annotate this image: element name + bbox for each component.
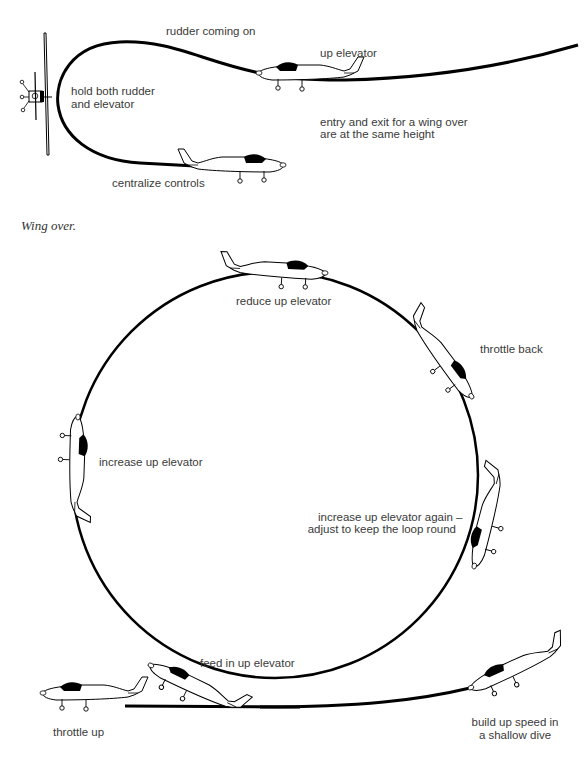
label-increase-up-elevator: increase up elevator <box>99 456 203 469</box>
label-up-elevator: up elevator <box>320 47 377 60</box>
loop-figure <box>40 251 574 727</box>
label-reduce-up-elevator: reduce up elevator <box>236 295 331 308</box>
label-throttle-up: throttle up <box>53 726 104 739</box>
label-feed-in: feed in up elevator <box>200 657 295 670</box>
plane-up-elevator-icon <box>256 57 364 91</box>
label-increase-again-line2: adjust to keep the loop round <box>296 523 456 536</box>
label-centralize: centralize controls <box>112 177 205 190</box>
plane-throttle-back-icon <box>394 303 486 410</box>
label-rudder-coming-on: rudder coming on <box>166 25 256 38</box>
plane-right-descent-icon <box>458 460 519 573</box>
label-build-up-line1: build up speed in <box>460 716 570 729</box>
diagram-canvas <box>0 0 584 761</box>
plane-left-climb-icon <box>56 413 94 522</box>
figure-caption: Wing over. <box>21 218 76 234</box>
label-hold-both-line1: hold both rudder <box>71 85 155 98</box>
label-build-up-line2: a shallow dive <box>460 729 570 742</box>
front-view-plane-icon <box>20 33 52 155</box>
plane-top-icon <box>219 251 329 291</box>
plane-dive-icon <box>462 630 575 705</box>
label-hold-both-line2: and elevator <box>71 98 134 111</box>
label-throttle-back: throttle back <box>480 343 543 356</box>
label-entry-exit-line2: are at the same height <box>320 128 434 141</box>
